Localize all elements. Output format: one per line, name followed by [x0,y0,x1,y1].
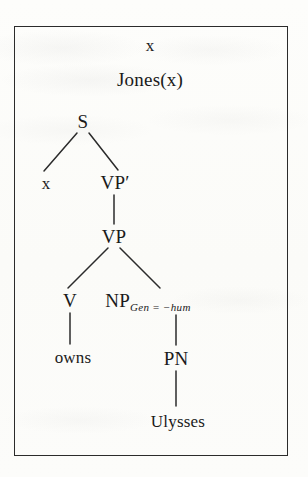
tree-node-v: V [63,291,77,310]
discourse-referent-x: x [146,37,155,54]
diagram-page: x Jones(x) S x VP′ VP V NPGen = −hum own… [0,0,308,477]
tree-node-vp: VP [102,227,127,246]
tree-node-x-argument: x [42,175,51,192]
tree-leaf-owns: owns [55,349,92,366]
tree-node-pn: PN [164,349,189,368]
condition-jones: Jones(x) [117,70,183,89]
tree-leaf-ulysses: Ulysses [151,413,205,430]
drs-box [14,26,288,456]
tree-node-vp-prime: VP′ [100,173,129,192]
tree-node-s: S [78,112,89,131]
tree-node-np: NPGen = −hum [105,291,190,310]
tree-node-np-label: NP [105,290,130,311]
tree-node-np-feature-subscript: Gen = −hum [130,301,191,313]
